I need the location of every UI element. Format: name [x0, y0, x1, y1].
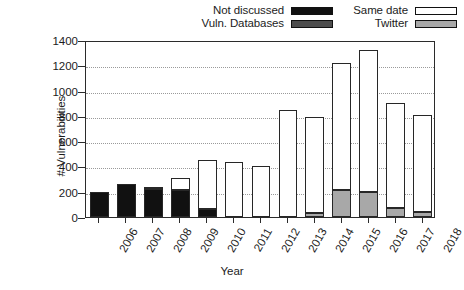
bar-2011 [225, 162, 244, 217]
y-axis: 0200400600800100012001400 [0, 41, 85, 218]
y-axis-tick-mark [78, 66, 85, 67]
bar-segment-samedate [225, 162, 244, 217]
bar-2016 [359, 50, 378, 217]
bar-2017 [386, 103, 405, 217]
legend-item-same-date: Same date [325, 4, 457, 17]
bar-segment-notdiscussed [198, 209, 217, 217]
bar-2010 [198, 160, 217, 217]
x-axis-tick-mark [233, 218, 234, 223]
bar-2014 [305, 117, 324, 217]
chart-figure: Not discussed Vuln. Databases Same date … [0, 0, 464, 290]
x-axis-tick-mark [422, 218, 423, 223]
x-axis-tick-label: 2011 [251, 226, 274, 253]
bar-segment-samedate [144, 187, 163, 189]
bar-segment-notdiscussed [90, 192, 109, 217]
bar-segment-samedate [279, 110, 298, 217]
x-axis-tick-label: 2015 [360, 226, 383, 254]
y-axis-tick-mark [78, 193, 85, 194]
bar-segment-twitter [413, 212, 432, 217]
bar-segment-twitter [305, 213, 324, 217]
x-axis-tick-mark [287, 218, 288, 223]
y-axis-tick-mark [78, 218, 85, 219]
x-axis-tick-label: 2006 [117, 226, 140, 254]
bar-2012 [252, 166, 271, 217]
bar-segment-twitter [386, 208, 405, 217]
y-axis-tick-mark [78, 92, 85, 93]
bar-series-group [86, 42, 434, 217]
x-axis-tick-label: 2008 [171, 226, 194, 254]
legend-label-vuln-databases: Vuln. Databases [202, 17, 284, 30]
x-axis-tick-mark [152, 218, 153, 223]
legend-label-not-discussed: Not discussed [213, 4, 284, 17]
legend-column-left: Not discussed Vuln. Databases [143, 4, 333, 30]
y-axis-title: # Vulnerabilities [55, 61, 67, 211]
bar-segment-samedate [252, 166, 271, 217]
bar-segment-samedate [413, 115, 432, 212]
bar-segment-samedate [171, 178, 190, 190]
bar-segment-samedate [332, 63, 351, 191]
x-axis-tick-mark [179, 218, 180, 223]
bar-2015 [332, 63, 351, 217]
bar-segment-samedate [198, 160, 217, 209]
bar-2007 [117, 184, 136, 218]
y-axis-tick-mark [78, 117, 85, 118]
y-axis-tick-label: 1400 [52, 35, 78, 47]
bar-segment-samedate [305, 117, 324, 213]
y-axis-tick-mark [78, 142, 85, 143]
x-axis-tick-label: 2017 [413, 226, 436, 254]
x-axis-tick-label: 2014 [333, 226, 356, 254]
x-axis-tick-mark [260, 218, 261, 223]
bar-2018 [413, 115, 432, 217]
bar-segment-samedate [359, 50, 378, 192]
y-axis-tick-mark [78, 167, 85, 168]
bar-segment-samedate [386, 103, 405, 208]
x-axis-title: Year [0, 265, 464, 277]
bar-segment-twitter [359, 192, 378, 217]
bar-segment-twitter [332, 190, 351, 217]
legend-item-not-discussed: Not discussed [143, 4, 333, 17]
y-axis-tick-mark [78, 41, 85, 42]
bar-2009 [171, 178, 190, 217]
x-axis-tick-mark [341, 218, 342, 223]
bar-segment-notdiscussed [117, 184, 136, 218]
bar-2013 [279, 110, 298, 217]
chart-legend: Not discussed Vuln. Databases Same date … [0, 4, 464, 34]
x-axis-tick-label: 2010 [225, 226, 248, 254]
x-axis-tick-label: 2009 [198, 226, 221, 254]
x-axis-tick-mark [395, 218, 396, 223]
x-axis-tick-mark [98, 218, 99, 223]
bar-2008 [144, 187, 163, 217]
x-axis-tick-label: 2012 [279, 226, 302, 254]
x-axis-tick-label: 2016 [386, 226, 409, 254]
legend-column-right: Same date Twitter [325, 4, 457, 30]
legend-swatch-twitter-icon [415, 20, 457, 28]
x-axis-tick-mark [314, 218, 315, 223]
plot-area [85, 41, 435, 218]
legend-label-same-date: Same date [353, 4, 408, 17]
x-axis-tick-mark [368, 218, 369, 223]
x-axis-tick-mark [125, 218, 126, 223]
x-axis-tick-mark [206, 218, 207, 223]
x-axis-tick-label: 2018 [440, 226, 463, 254]
legend-item-twitter: Twitter [325, 17, 457, 30]
bar-segment-notdiscussed [144, 189, 163, 217]
x-axis-tick-label: 2007 [144, 226, 167, 254]
legend-item-vuln-databases: Vuln. Databases [143, 17, 333, 30]
bar-segment-notdiscussed [171, 190, 190, 217]
bar-2006 [90, 192, 109, 217]
x-axis-tick-label: 2013 [306, 226, 329, 254]
x-axis: 2006200720082009201020112012201320142015… [85, 218, 435, 264]
legend-swatch-same-date-icon [415, 7, 457, 15]
legend-label-twitter: Twitter [375, 17, 408, 30]
